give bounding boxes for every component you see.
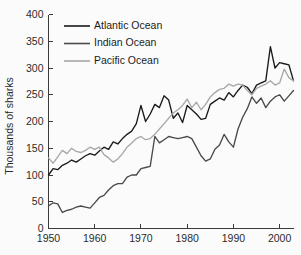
x-axis-ticks: 195019601970198019902000	[37, 224, 292, 244]
y-tick-label: 400	[26, 8, 44, 20]
y-tick-label: 150	[26, 142, 44, 154]
chart-legend: Atlantic OceanIndian OceanPacific Ocean	[64, 19, 162, 66]
y-tick-label: 350	[26, 35, 44, 47]
x-tick-label: 2000	[268, 232, 292, 244]
y-axis-title: Thousands of sharks	[3, 77, 15, 174]
y-tick-label: 300	[26, 62, 44, 74]
shark-catch-line-chart: 050100150200250300350400 195019601970198…	[0, 0, 301, 255]
y-tick-label: 200	[26, 115, 44, 127]
y-tick-label: 100	[26, 169, 44, 181]
series-line-pacific-ocean	[49, 69, 294, 163]
x-tick-label: 1950	[37, 232, 61, 244]
legend-label-indian-ocean: Indian Ocean	[94, 36, 157, 48]
series-line-atlantic-ocean	[49, 47, 294, 175]
x-tick-label: 1980	[175, 232, 199, 244]
legend-label-atlantic-ocean: Atlantic Ocean	[94, 19, 162, 31]
chart-canvas: 050100150200250300350400 195019601970198…	[0, 0, 301, 255]
y-tick-label: 50	[32, 195, 44, 207]
y-tick-label: 250	[26, 88, 44, 100]
axes	[49, 15, 294, 229]
data-series	[49, 47, 294, 213]
x-tick-label: 1970	[129, 232, 153, 244]
x-tick-label: 1990	[222, 232, 246, 244]
x-tick-label: 1960	[83, 232, 107, 244]
legend-label-pacific-ocean: Pacific Ocean	[94, 54, 159, 66]
